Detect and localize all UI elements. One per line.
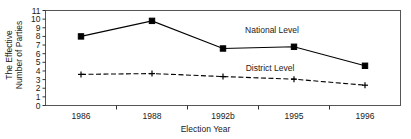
x-tick-label: 1988: [143, 111, 162, 121]
y-tick-label: 5: [36, 57, 41, 67]
y-tick-label: 2: [36, 83, 41, 93]
data-point-marker: [291, 76, 297, 82]
data-point-marker: [149, 71, 155, 77]
x-tick-label: 1995: [285, 111, 304, 121]
x-tick-label: 1996: [356, 111, 375, 121]
plot-frame: [46, 11, 401, 106]
y-tick-label: 11: [32, 6, 41, 16]
chart-figure: The Effective Number of Parties 01234567…: [0, 0, 411, 139]
series-line: [81, 21, 365, 66]
x-tick-label: 1992b: [211, 111, 235, 121]
x-tick-label: 1986: [72, 111, 91, 121]
y-tick-label: 3: [36, 75, 41, 85]
plot-border: [46, 11, 401, 106]
data-point-marker: [220, 74, 226, 80]
data-point-marker: [149, 18, 154, 23]
x-axis-ticks: 198619881992b19951996: [72, 106, 375, 121]
data-point-marker: [78, 34, 83, 39]
data-point-marker: [362, 63, 367, 68]
y-tick-label: 4: [36, 66, 41, 76]
y-tick-label: 0: [36, 101, 41, 111]
series-annotation-label: District Level: [246, 63, 295, 73]
y-tick-label: 7: [36, 40, 41, 50]
y-tick-label: 6: [36, 49, 41, 59]
x-axis-title: Election Year: [0, 124, 411, 134]
y-tick-label: 9: [36, 23, 41, 33]
data-point-marker: [78, 71, 84, 77]
y-tick-label: 8: [36, 31, 41, 41]
y-tick-label: 1: [36, 92, 41, 102]
data-point-marker: [362, 82, 368, 88]
data-point-marker: [220, 46, 225, 51]
data-point-marker: [291, 44, 296, 49]
series-annotation-label: National Level: [245, 25, 299, 35]
y-tick-label: 10: [31, 14, 41, 24]
data-series: [78, 18, 368, 88]
y-axis-ticks: 01234567891011: [31, 6, 45, 111]
plot-area: 01234567891011 198619881992b19951996 Nat…: [0, 0, 411, 139]
